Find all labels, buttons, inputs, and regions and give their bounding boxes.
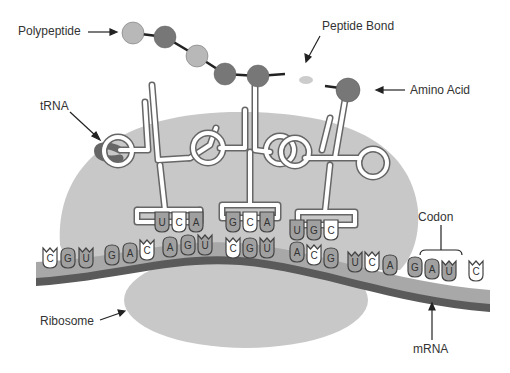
svg-text:G: G (411, 262, 419, 273)
svg-text:G: G (246, 243, 254, 254)
nucleotide-A: A (163, 237, 177, 257)
svg-text:A: A (127, 248, 134, 259)
nucleotide-C: C (243, 212, 257, 232)
nucleotide-G: G (61, 248, 75, 268)
nucleotide-A: A (290, 242, 304, 262)
nucleotide-G: G (226, 212, 240, 232)
nucleotide-C: C (172, 212, 186, 232)
svg-text:G: G (64, 253, 72, 264)
nucleotide-C: C (365, 252, 379, 272)
svg-text:C: C (327, 225, 334, 236)
svg-text:C: C (472, 266, 479, 277)
nucleotide-C: C (307, 245, 321, 265)
amino-acid-bead (214, 63, 236, 85)
peptide-bond-mark (299, 76, 313, 84)
label-ribosome: Ribosome (40, 314, 94, 328)
svg-text:G: G (184, 240, 192, 251)
polypeptide-beads (122, 22, 269, 87)
svg-text:A: A (294, 247, 301, 258)
nucleotide-A: A (383, 255, 397, 275)
label-mrna: mRNA (413, 342, 448, 356)
nucleotide-A: A (123, 243, 137, 263)
svg-text:A: A (167, 242, 174, 253)
svg-text:C: C (46, 253, 53, 264)
svg-text:C: C (229, 243, 236, 254)
amino-acid-bead (122, 22, 144, 44)
svg-text:A: A (387, 260, 394, 271)
label-trna: tRNA (40, 99, 69, 113)
amino-acid (336, 78, 360, 102)
label-codon: Codon (418, 210, 453, 224)
nucleotide-G: G (408, 257, 422, 277)
svg-text:U: U (351, 257, 358, 268)
svg-text:C: C (175, 217, 182, 228)
svg-text:C: C (246, 217, 253, 228)
svg-text:U: U (263, 243, 270, 254)
nucleotide-U: U (155, 212, 169, 232)
nucleotide-A: A (189, 212, 203, 232)
amino-acid-bead (154, 26, 176, 48)
nucleotide-A: A (425, 259, 439, 279)
svg-text:C: C (310, 250, 317, 261)
svg-text:A: A (193, 217, 200, 228)
nucleotide-C: C (469, 261, 483, 281)
nucleotide-C: C (140, 240, 154, 260)
svg-text:A: A (264, 217, 271, 228)
nucleotide-U: U (290, 220, 304, 240)
nucleotide-G: G (324, 248, 338, 268)
label-amino-acid: Amino Acid (410, 83, 470, 97)
svg-text:A: A (429, 264, 436, 275)
svg-text:U: U (293, 225, 300, 236)
nucleotide-G: G (307, 220, 321, 240)
nucleotide-U: U (442, 261, 456, 281)
svg-text:G: G (310, 225, 318, 236)
nucleotide-G: G (105, 245, 119, 265)
label-peptide-bond: Peptide Bond (322, 19, 394, 33)
nucleotide-U: U (198, 235, 212, 255)
svg-text:U: U (201, 240, 208, 251)
nucleotide-C: C (226, 238, 240, 258)
nucleotide-U: U (79, 248, 93, 268)
nucleotide-A: A (260, 212, 274, 232)
nucleotide-C: C (324, 220, 338, 240)
nucleotide-U: U (260, 238, 274, 258)
svg-text:G: G (108, 250, 116, 261)
svg-text:C: C (368, 257, 375, 268)
amino-acid-bead (247, 65, 269, 87)
nucleotide-U: U (348, 252, 362, 272)
nucleotide-G: G (243, 238, 257, 258)
svg-text:G: G (327, 253, 335, 264)
label-polypeptide: Polypeptide (18, 24, 81, 38)
svg-text:U: U (158, 217, 165, 228)
svg-text:G: G (229, 217, 237, 228)
svg-text:U: U (82, 253, 89, 264)
amino-acid-bead (186, 45, 208, 67)
svg-text:U: U (445, 266, 452, 277)
svg-text:C: C (143, 245, 150, 256)
nucleotide-C: C (43, 248, 57, 268)
nucleotide-G: G (181, 235, 195, 255)
